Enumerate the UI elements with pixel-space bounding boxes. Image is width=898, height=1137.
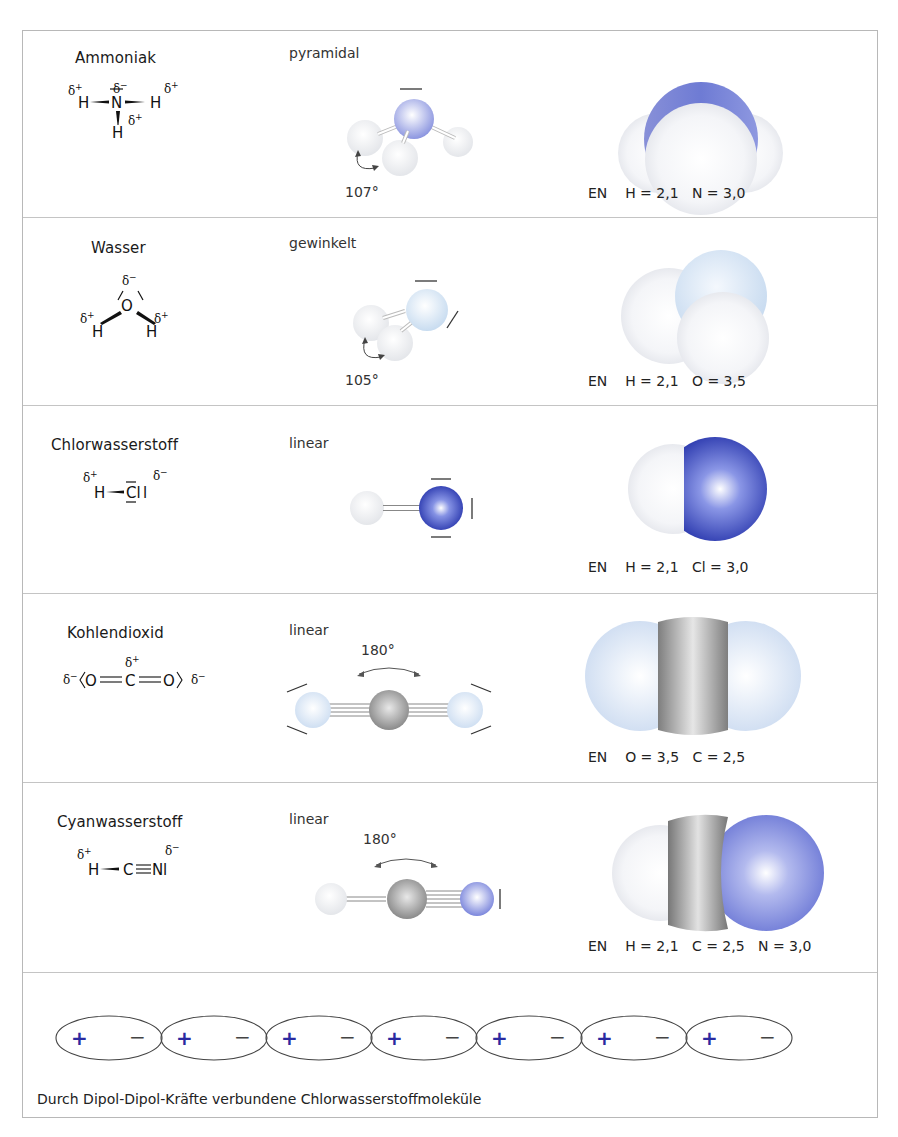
row-ammoniak: Ammoniak pyramidal δ+ δ− δ+ δ+ H N H H [23, 31, 877, 218]
en-value: O = 3,5 [692, 373, 746, 389]
svg-text:+: + [386, 1026, 403, 1050]
en-label: EN [588, 749, 607, 765]
svg-text:O: O [121, 297, 133, 315]
row-chlorwasserstoff: Chlorwasserstoff linear δ+ δ− H Cl l [23, 406, 877, 594]
svg-text:Cl: Cl [126, 484, 141, 502]
svg-text:+: + [701, 1026, 718, 1050]
lewis-structure-ammoniak: δ+ δ− δ+ δ+ H N H H [63, 81, 183, 151]
molecule-name: Chlorwasserstoff [51, 436, 178, 454]
minus-sign: − [129, 1025, 146, 1049]
svg-text:H: H [146, 323, 157, 341]
electronegativity: EN H = 2,1 C = 2,5 N = 3,0 [588, 938, 811, 954]
svg-text:+: + [176, 1026, 193, 1050]
en-label: EN [588, 185, 607, 201]
svg-text:−: − [549, 1025, 566, 1049]
row-wasser: Wasser gewinkelt δ− δ+ δ+ O H H [23, 218, 877, 406]
row-dipole-chain: + + + + + + + − − − − − − − Durch Dipol-… [23, 973, 877, 1119]
molecule-name: Cyanwasserstoff [57, 813, 182, 831]
svg-text:+: + [90, 469, 98, 479]
lewis-structure-chlorwasserstoff: δ+ δ− H Cl l [83, 468, 193, 513]
molecule-name: Ammoniak [75, 49, 156, 67]
en-label: EN [588, 373, 607, 389]
svg-text:C: C [125, 672, 135, 690]
ball-and-stick-chlorwasserstoff [343, 471, 483, 551]
molecule-name: Kohlendioxid [67, 624, 164, 642]
bond-angle: 107° [345, 184, 379, 200]
svg-text:O: O [85, 672, 97, 690]
space-filling-ammoniak [613, 81, 793, 196]
row-kohlendioxid: Kohlendioxid linear δ− δ+ δ− O C O 180° [23, 594, 877, 783]
svg-text:+: + [171, 80, 179, 90]
lewis-structure-cyanwasserstoff: δ+ δ− H C N l [77, 841, 207, 886]
svg-text:H: H [94, 484, 105, 502]
en-value: H = 2,1 [625, 559, 678, 575]
en-value: H = 2,1 [625, 938, 678, 954]
en-value: Cl = 3,0 [692, 559, 749, 575]
svg-text:H: H [92, 323, 103, 341]
lewis-structure-wasser: δ− δ+ δ+ O H H [78, 273, 188, 348]
molecule-shape: linear [289, 811, 329, 827]
ball-and-stick-cyanwasserstoff [308, 853, 508, 933]
svg-text:−: − [160, 467, 168, 477]
svg-text:H: H [78, 94, 89, 112]
space-filling-chlorwasserstoff [613, 434, 773, 544]
svg-text:C: C [123, 861, 133, 879]
en-label: EN [588, 559, 607, 575]
svg-text:−: − [339, 1025, 356, 1049]
bond-angle: 180° [363, 831, 397, 847]
molecule-shape: gewinkelt [289, 235, 356, 251]
electronegativity: EN H = 2,1 Cl = 3,0 [588, 559, 749, 575]
space-filling-wasser [611, 246, 791, 371]
svg-text:+: + [75, 82, 83, 92]
bond-angle: 105° [345, 372, 379, 388]
electronegativity: EN H = 2,1 N = 3,0 [588, 185, 745, 201]
molecule-shape: linear [289, 435, 329, 451]
molecule-shape: linear [289, 622, 329, 638]
figure-caption: Durch Dipol-Dipol-Kräfte verbundene Chlo… [37, 1091, 481, 1107]
svg-text:−: − [198, 671, 206, 681]
space-filling-kohlendioxid [578, 614, 808, 739]
svg-text:+: + [84, 846, 92, 856]
svg-text:−: − [129, 272, 137, 282]
svg-text:H: H [150, 94, 161, 112]
en-value: C = 2,5 [692, 749, 745, 765]
en-value: H = 2,1 [625, 185, 678, 201]
svg-text:+: + [491, 1026, 508, 1050]
svg-text:O: O [163, 672, 175, 690]
en-label: EN [588, 938, 607, 954]
svg-text:−: − [234, 1025, 251, 1049]
svg-text:+: + [132, 654, 140, 664]
svg-text:+: + [596, 1026, 613, 1050]
svg-text:H: H [88, 861, 99, 879]
svg-text:−: − [654, 1025, 671, 1049]
electronegativity: EN O = 3,5 C = 2,5 [588, 749, 745, 765]
svg-text:+: + [135, 112, 143, 122]
svg-text:H: H [112, 124, 123, 142]
svg-text:N: N [152, 861, 163, 879]
svg-text:−: − [444, 1025, 461, 1049]
svg-text:l: l [163, 861, 167, 879]
ball-and-stick-ammoniak [323, 76, 483, 186]
svg-text:N: N [111, 94, 122, 112]
lewis-structure-kohlendioxid: δ− δ+ δ− O C O [63, 654, 233, 704]
molecule-name: Wasser [91, 239, 146, 257]
bond-angle: 180° [361, 642, 395, 658]
space-filling-cyanwasserstoff [608, 811, 828, 936]
plus-sign: + [71, 1026, 88, 1050]
en-value: H = 2,1 [625, 373, 678, 389]
svg-text:+: + [87, 310, 95, 320]
svg-text:+: + [161, 310, 169, 320]
svg-text:−: − [759, 1025, 776, 1049]
svg-text:−: − [172, 842, 180, 852]
row-cyanwasserstoff: Cyanwasserstoff linear δ+ δ− H C N l 180… [23, 783, 877, 973]
en-value: N = 3,0 [758, 938, 811, 954]
svg-text:l: l [143, 484, 147, 502]
en-value: C = 2,5 [692, 938, 745, 954]
molecule-shape: pyramidal [289, 45, 359, 61]
ball-and-stick-kohlendioxid [285, 664, 495, 744]
svg-text:−: − [70, 671, 78, 681]
dipole-chain: + + + + + + + − − − − − − − [55, 1013, 795, 1063]
en-value: O = 3,5 [625, 749, 679, 765]
electronegativity: EN H = 2,1 O = 3,5 [588, 373, 746, 389]
ball-and-stick-wasser [323, 273, 483, 373]
